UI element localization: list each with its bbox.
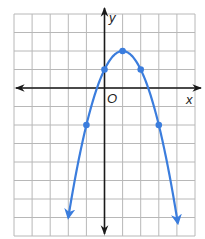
data-point	[83, 122, 90, 129]
coordinate-plane: x y O	[0, 0, 205, 239]
data-point	[101, 66, 108, 73]
data-point	[119, 48, 126, 55]
origin-label: O	[107, 91, 117, 106]
y-axis-label: y	[108, 10, 117, 25]
x-axis-label: x	[185, 92, 193, 107]
data-point	[137, 66, 144, 73]
data-point	[156, 122, 163, 129]
